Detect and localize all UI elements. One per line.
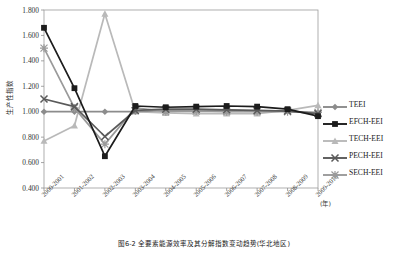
figure-caption: 图6-2 全要素能源效率及其分解指数变动趋势(华北地区): [0, 238, 408, 248]
x-axis-unit-label: (年): [320, 199, 331, 208]
data-point-marker: [285, 106, 291, 112]
y-axis-tick-label: 1.200: [22, 82, 39, 91]
legend-item-label: TEEI: [348, 100, 365, 109]
legend-item-pech-eei: PECH-EEI: [322, 147, 408, 164]
chart-legend: TEEIEFCH-EEITECH-EEIPECH-EEISECH-EEI: [322, 96, 408, 181]
y-axis-tick-label: 1.400: [22, 56, 39, 65]
y-axis-tick-label: 0.600: [22, 158, 39, 167]
data-point-marker: [72, 85, 78, 91]
data-point-marker: [40, 44, 48, 52]
data-point-marker: [41, 25, 47, 31]
data-point-marker: [193, 104, 199, 110]
y-axis-tick-label: 1.000: [22, 107, 39, 116]
legend-item-label: EFCH-EEI: [348, 117, 383, 126]
data-point-marker: [163, 104, 169, 110]
axes-layer: 1.8001.6001.4001.2001.0000.8000.6000.400: [22, 6, 318, 193]
legend-item-label: PECH-EEI: [348, 151, 383, 160]
y-axis-tick-label: 1.800: [22, 6, 39, 15]
y-axis-tick-label: 0.800: [22, 133, 39, 142]
legend-marker-icon: [322, 167, 348, 179]
data-point-marker: [315, 113, 321, 119]
legend-item-sech-eei: SECH-EEI: [322, 164, 408, 181]
legend-marker-icon: [322, 116, 348, 128]
legend-marker-icon: [322, 99, 348, 111]
data-point-marker: [254, 104, 260, 110]
plot-frame: [44, 10, 318, 188]
y-axis-tick-label: 1.600: [22, 31, 39, 40]
data-point-marker: [132, 103, 138, 109]
data-point-marker: [332, 103, 339, 110]
legend-item-label: TECH-EEI: [348, 134, 383, 143]
legend-marker-icon: [322, 150, 348, 162]
y-axis-tick-label: 0.400: [22, 184, 39, 193]
legend-item-teei: TEEI: [322, 96, 408, 113]
data-point-marker: [331, 171, 339, 179]
data-point-marker: [102, 153, 108, 159]
figure-container: 1.8001.6001.4001.2001.0000.8000.6000.400…: [0, 0, 408, 253]
data-point-marker: [101, 140, 109, 148]
y-axis-title: 生产性指数: [4, 67, 14, 127]
legend-item-label: SECH-EEI: [348, 168, 383, 177]
legend-marker-icon: [322, 133, 348, 145]
data-point-marker: [332, 121, 338, 127]
legend-item-efch-eei: EFCH-EEI: [322, 113, 408, 130]
data-point-marker: [224, 103, 230, 109]
legend-item-tech-eei: TECH-EEI: [322, 130, 408, 147]
